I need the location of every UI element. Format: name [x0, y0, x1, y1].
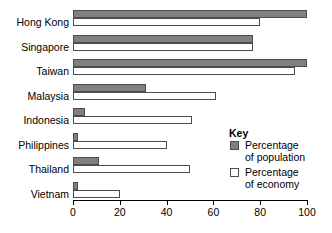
bar-economy-singapore	[73, 43, 253, 51]
category-label-thailand: Thailand	[29, 164, 69, 175]
bar-population-indonesia	[73, 108, 85, 116]
x-tick-40	[167, 200, 168, 205]
bar-population-philippines	[73, 133, 78, 141]
x-tick-label-100: 100	[287, 206, 327, 218]
bar-population-taiwan	[73, 59, 307, 67]
x-tick-60	[213, 200, 214, 205]
bar-economy-thailand	[73, 165, 190, 173]
category-label-vietnam: Vietnam	[31, 189, 69, 200]
bar-population-singapore	[73, 35, 253, 43]
x-tick-0	[73, 200, 74, 205]
bar-economy-malaysia	[73, 92, 216, 100]
legend-label-economy-line2: of economy	[245, 179, 332, 191]
legend-item-population: Percentage of population	[228, 140, 332, 163]
legend-label-population-line1: Percentage	[245, 140, 332, 152]
bar-population-thailand	[73, 157, 99, 165]
bar-chart: Hong Kong Singapore Taiwan Malaysia Indo…	[0, 0, 332, 233]
legend-title: Key	[229, 128, 332, 139]
legend-swatch-economy-icon	[230, 168, 239, 177]
category-label-malaysia: Malaysia	[28, 91, 69, 102]
x-tick-100	[307, 200, 308, 205]
legend-swatch-population-icon	[230, 141, 239, 150]
category-label-taiwan: Taiwan	[36, 66, 69, 77]
x-tick-label-60: 60	[193, 206, 233, 218]
x-tick-label-80: 80	[240, 206, 280, 218]
legend-item-economy: Percentage of economy	[228, 167, 332, 190]
x-tick-label-20: 20	[100, 206, 140, 218]
legend: Key Percentage of population Percentage …	[228, 128, 332, 190]
legend-label-population-line2: of population	[245, 152, 332, 164]
bar-population-malaysia	[73, 84, 146, 92]
category-label-indonesia: Indonesia	[23, 115, 69, 126]
x-tick-label-40: 40	[147, 206, 187, 218]
category-axis-labels: Hong Kong Singapore Taiwan Malaysia Indo…	[0, 0, 69, 200]
category-label-hong-kong: Hong Kong	[16, 17, 69, 28]
bar-economy-indonesia	[73, 116, 192, 124]
bar-population-hong-kong	[73, 10, 307, 18]
x-axis-line	[73, 200, 308, 201]
bar-economy-hong-kong	[73, 18, 260, 26]
x-tick-label-0: 0	[53, 206, 93, 218]
bar-population-vietnam	[73, 182, 78, 190]
bar-economy-philippines	[73, 141, 167, 149]
bar-economy-vietnam	[73, 190, 120, 198]
category-label-philippines: Philippines	[18, 140, 69, 151]
x-tick-20	[120, 200, 121, 205]
x-tick-80	[260, 200, 261, 205]
legend-label-economy-line1: Percentage	[245, 167, 332, 179]
category-label-singapore: Singapore	[21, 42, 69, 53]
bar-economy-taiwan	[73, 67, 295, 75]
